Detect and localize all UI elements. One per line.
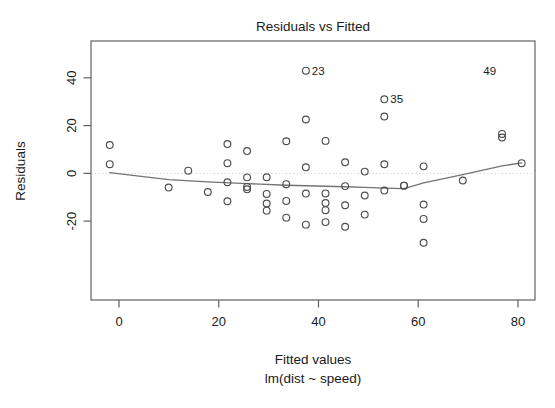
data-point <box>381 113 388 120</box>
residuals-vs-fitted-plot: Residuals vs Fitted 40200-20 020406080 R… <box>0 0 555 408</box>
data-point <box>302 116 309 123</box>
data-point <box>224 160 231 167</box>
data-point <box>244 148 251 155</box>
x-axis-sublabel: lm(dist ~ speed) <box>265 371 361 386</box>
data-point <box>322 137 329 144</box>
data-point <box>263 207 270 214</box>
plot-canvas: Residuals vs Fitted 40200-20 020406080 R… <box>0 0 555 408</box>
x-axis-label: Fitted values <box>275 352 352 367</box>
y-tick-label: 20 <box>65 118 80 132</box>
x-tick-label: 0 <box>115 314 122 329</box>
data-point <box>420 201 427 208</box>
data-point <box>283 138 290 145</box>
data-point <box>185 167 192 174</box>
x-tick-label: 60 <box>411 314 425 329</box>
page-title: Residuals vs Fitted <box>256 19 370 34</box>
data-point <box>342 159 349 166</box>
data-point <box>342 223 349 230</box>
data-point <box>263 174 270 181</box>
data-point <box>420 239 427 246</box>
x-tick-label: 80 <box>511 314 525 329</box>
data-point <box>302 164 309 171</box>
data-point <box>322 200 329 207</box>
data-point <box>420 216 427 223</box>
y-axis: 40200-20 <box>65 71 92 231</box>
plot-title-group: Residuals vs Fitted <box>256 19 370 34</box>
data-point <box>302 67 309 74</box>
data-point <box>244 174 251 181</box>
data-point <box>322 219 329 226</box>
data-point <box>420 163 427 170</box>
outlier-label-23: 23 <box>312 65 325 77</box>
lowess-smooth-curve <box>110 163 522 189</box>
data-point <box>106 142 113 149</box>
outlier-label-35: 35 <box>390 93 403 105</box>
data-point <box>361 168 368 175</box>
data-point <box>322 207 329 214</box>
data-points <box>106 67 525 246</box>
data-point <box>224 198 231 205</box>
data-point <box>283 181 290 188</box>
data-point <box>106 161 113 168</box>
data-point <box>361 192 368 199</box>
data-point <box>302 221 309 228</box>
data-point <box>361 211 368 218</box>
data-point <box>381 96 388 103</box>
y-tick-label: 40 <box>65 71 80 85</box>
plot-box <box>91 41 535 300</box>
y-tick-label: -20 <box>65 212 80 231</box>
data-point <box>224 141 231 148</box>
x-tick-label: 40 <box>311 314 325 329</box>
smooth-line <box>110 163 522 189</box>
data-point <box>302 190 309 197</box>
data-point <box>263 200 270 207</box>
data-point <box>263 191 270 198</box>
outlier-label-49: 49 <box>483 65 496 77</box>
plot-frame <box>91 41 535 300</box>
data-point <box>342 202 349 209</box>
x-tick-label: 20 <box>212 314 226 329</box>
data-point <box>381 161 388 168</box>
data-point <box>322 190 329 197</box>
data-point <box>204 189 211 196</box>
y-axis-label: Residuals <box>13 141 28 201</box>
data-point <box>165 184 172 191</box>
outlier-labels: 233549 <box>312 65 496 106</box>
data-point <box>459 177 466 184</box>
x-axis: 020406080 <box>115 300 525 329</box>
y-tick-label: 0 <box>65 170 80 177</box>
data-point <box>283 214 290 221</box>
data-point <box>283 198 290 205</box>
